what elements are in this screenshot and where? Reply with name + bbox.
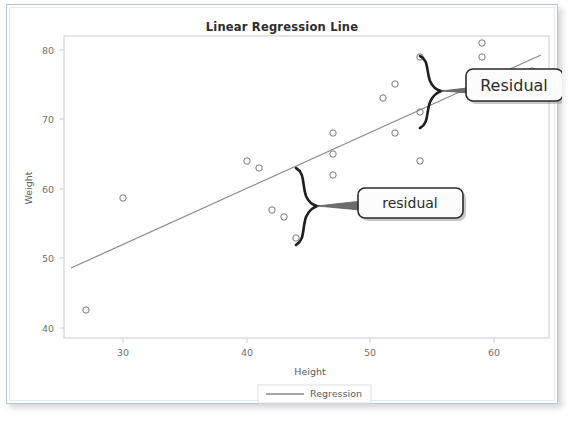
x-axis: 30 40 50 60 xyxy=(117,338,500,358)
screenshot-root: Linear Regression Line 80 70 60 50 40 xyxy=(0,0,575,421)
x-tick-label-30: 30 xyxy=(117,347,129,358)
y-tick-label-60: 60 xyxy=(42,184,54,195)
chart-window: Linear Regression Line 80 70 60 50 40 xyxy=(6,4,558,404)
callout-upper-label: Residual xyxy=(480,76,548,95)
x-tick-label-60: 60 xyxy=(488,347,500,358)
y-axis: 80 70 60 50 40 xyxy=(42,45,64,334)
y-tick-label-50: 50 xyxy=(42,253,54,264)
chart-pane: Linear Regression Line 80 70 60 50 40 xyxy=(9,7,555,401)
y-tick-label-70: 70 xyxy=(42,114,54,125)
x-axis-title: Height xyxy=(294,366,326,377)
x-tick-label-40: 40 xyxy=(241,347,253,358)
scatter-plot: 80 70 60 50 40 Weight 30 40 50 60 xyxy=(10,8,562,408)
legend-label-regression: Regression xyxy=(310,388,362,399)
legend: Regression xyxy=(258,385,371,403)
y-axis-title: Weight xyxy=(23,171,34,204)
x-tick-label-50: 50 xyxy=(364,347,376,358)
callout-lower-label: residual xyxy=(382,195,437,211)
y-tick-label-80: 80 xyxy=(42,45,54,56)
y-tick-label-40: 40 xyxy=(42,323,54,334)
